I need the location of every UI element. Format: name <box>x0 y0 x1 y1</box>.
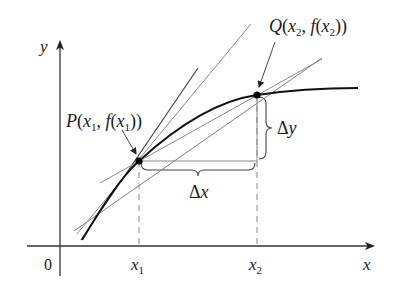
secant-line-pq <box>74 58 322 231</box>
p-pointer-arrow <box>122 130 136 154</box>
delta-y-brace <box>259 97 272 159</box>
delta-x-label: Δx <box>189 182 209 202</box>
y-axis-label: y <box>38 37 48 56</box>
point-p <box>135 157 142 164</box>
delta-y-label: Δy <box>277 118 297 138</box>
x-axis-label: x <box>362 255 371 274</box>
point-q-label: Q(x2, f(x2)) <box>269 16 347 38</box>
delta-x-brace <box>141 163 255 176</box>
x2-tick-label: x2 <box>248 255 262 276</box>
point-p-label: P(x1, f(x1)) <box>65 111 142 133</box>
origin-label: 0 <box>44 256 52 273</box>
x1-tick-label: x1 <box>130 255 144 276</box>
secant-tangent-diagram: y x 0 x1 x2 Δx Δy P(x1, f(x1)) Q(x2, f(x… <box>0 0 399 293</box>
q-pointer-arrow <box>259 42 275 87</box>
point-q <box>253 91 260 98</box>
